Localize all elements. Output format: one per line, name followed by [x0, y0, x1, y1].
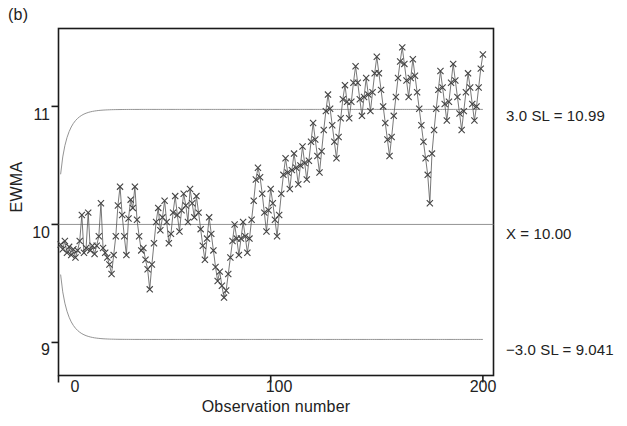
y-axis-label: EWMA: [8, 142, 26, 232]
ewma-control-chart-figure: (b) EWMA Observation number 11 10 9 0 10…: [0, 0, 627, 426]
ewma-series-line: [61, 47, 483, 297]
y-tick-label-9: 9: [10, 341, 50, 359]
y-tick-label-10: 10: [10, 224, 50, 242]
annotation-upper-control-limit: 3.0 SL = 10.99: [506, 107, 605, 124]
x-axis-label: Observation number: [58, 398, 494, 416]
x-tick-label-0: 0: [45, 378, 105, 396]
x-tick-label-100: 100: [249, 378, 309, 396]
axis-ticks: [52, 106, 483, 382]
plot-canvas: [0, 0, 627, 426]
ewma-series-markers: [58, 44, 486, 300]
control-limit-lines: [59, 109, 494, 339]
y-tick-label-11: 11: [10, 106, 50, 124]
annotation-lower-control-limit: −3.0 SL = 9.041: [506, 341, 614, 358]
x-tick-label-200: 200: [453, 378, 513, 396]
panel-label: (b): [8, 6, 28, 24]
annotation-center-line: X = 10.00: [506, 225, 572, 242]
